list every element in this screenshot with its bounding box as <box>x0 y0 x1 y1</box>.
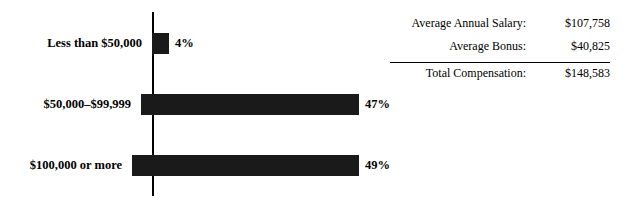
bar-chart: Less than $50,000 4% $50,000–$99,999 47%… <box>0 0 390 217</box>
bar-value-label: 49% <box>365 158 390 173</box>
summary-row: Average Annual Salary: $107,758 <box>390 16 610 39</box>
bar-row: Less than $50,000 4% <box>0 28 390 58</box>
summary-row-total: Total Compensation: $148,583 <box>390 62 610 92</box>
bar-container: 47% <box>137 89 390 119</box>
bar <box>152 33 169 54</box>
compensation-summary-table: Average Annual Salary: $107,758 Average … <box>390 16 610 92</box>
summary-label: Total Compensation: <box>390 66 538 81</box>
bar-row: $100,000 or more 49% <box>0 150 390 180</box>
summary-value: $40,825 <box>538 39 610 54</box>
bar <box>141 94 359 115</box>
summary-row: Average Bonus: $40,825 <box>390 39 610 62</box>
bar-value-label: 4% <box>175 36 194 51</box>
bar-value-label: 47% <box>365 97 390 112</box>
summary-value: $107,758 <box>538 16 610 31</box>
summary-label: Average Bonus: <box>390 39 538 54</box>
bar-container: 49% <box>128 150 390 180</box>
summary-label: Average Annual Salary: <box>390 16 538 31</box>
bar-row: $50,000–$99,999 47% <box>0 89 390 119</box>
bar-container: 4% <box>148 28 390 58</box>
category-label: Less than $50,000 <box>0 36 148 51</box>
category-label: $50,000–$99,999 <box>0 97 137 112</box>
summary-value: $148,583 <box>538 66 610 81</box>
category-label: $100,000 or more <box>0 158 128 173</box>
bar <box>132 155 359 176</box>
